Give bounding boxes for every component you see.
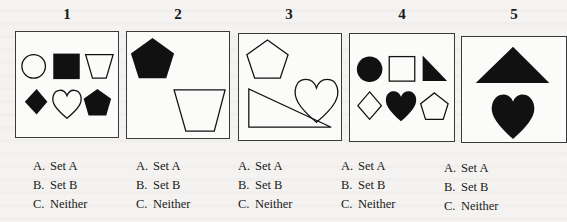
option-b-2[interactable]: B.Set B — [136, 176, 190, 195]
figure-box-3 — [238, 33, 342, 141]
square-filled-icon — [53, 54, 79, 80]
figure-box-1 — [15, 31, 119, 138]
diamond-outline-icon — [358, 92, 382, 119]
option-c-4[interactable]: C.Neither — [341, 195, 395, 214]
figure-3-shapes — [239, 34, 341, 140]
heart-filled-icon — [492, 95, 535, 139]
answer-options-3: A.Set A B.Set B C.Neither — [238, 157, 292, 214]
option-a-2[interactable]: A.Set A — [136, 157, 190, 176]
diamond-filled-icon — [25, 89, 48, 115]
option-c-3[interactable]: C.Neither — [238, 195, 292, 214]
right-triangle-filled-icon — [423, 56, 448, 82]
answer-options-1: A.Set A B.Set B C.Neither — [33, 157, 87, 214]
figure-5-shapes — [462, 37, 566, 142]
heart-outline-icon — [295, 79, 338, 122]
figure-box-5 — [461, 36, 567, 143]
option-b-4[interactable]: B.Set B — [341, 176, 395, 195]
option-c-5[interactable]: C.Neither — [444, 197, 498, 216]
option-a-4[interactable]: A.Set A — [341, 157, 395, 176]
option-a-3[interactable]: A.Set A — [238, 157, 292, 176]
problem-number-1: 1 — [57, 6, 77, 23]
answer-options-4: A.Set A B.Set B C.Neither — [341, 157, 395, 214]
option-a-5[interactable]: A.Set A — [444, 159, 498, 178]
option-c-1[interactable]: C.Neither — [33, 195, 87, 214]
problem-number-5: 5 — [504, 6, 524, 23]
circle-filled-icon — [357, 57, 383, 83]
problem-number-4: 4 — [392, 6, 412, 23]
figure-box-2 — [126, 31, 230, 139]
figure-4-shapes — [350, 34, 454, 141]
trapezoid-outline-icon — [86, 55, 113, 79]
right-triangle-outline-icon — [249, 89, 331, 127]
heart-filled-icon — [386, 91, 416, 121]
triangle-filled-icon — [476, 47, 550, 83]
option-c-2[interactable]: C.Neither — [136, 195, 190, 214]
pentagon-filled-icon — [84, 89, 111, 115]
problem-number-2: 2 — [168, 6, 188, 23]
pentagon-filled-icon — [131, 38, 174, 78]
square-outline-icon — [389, 57, 415, 82]
option-a-1[interactable]: A.Set A — [33, 157, 87, 176]
figure-2-shapes — [127, 32, 229, 138]
option-b-1[interactable]: B.Set B — [33, 176, 87, 195]
heart-outline-icon — [53, 90, 81, 118]
pentagon-outline-icon — [247, 40, 288, 78]
option-b-5[interactable]: B.Set B — [444, 178, 498, 197]
pentagon-outline-icon — [421, 93, 448, 119]
answer-options-2: A.Set A B.Set B C.Neither — [136, 157, 190, 214]
trapezoid-outline-icon — [174, 90, 225, 131]
figure-box-4 — [349, 33, 455, 142]
answer-options-5: A.Set A B.Set B C.Neither — [444, 159, 498, 216]
figure-1-shapes — [16, 32, 118, 137]
option-b-3[interactable]: B.Set B — [238, 176, 292, 195]
problem-number-3: 3 — [279, 6, 299, 23]
circle-outline-icon — [22, 55, 46, 79]
